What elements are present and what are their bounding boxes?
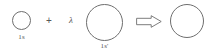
circle-outline-icon <box>170 4 204 38</box>
orbital-label-1s: 1s <box>2 34 42 41</box>
circle-outline-icon <box>86 4 123 41</box>
double-right-arrow-icon <box>136 15 162 28</box>
orbital-scaling-diagram: 1s + λ 1s' <box>0 0 209 50</box>
lambda-symbol-icon: λ <box>61 16 81 25</box>
orbital-label-1s-prime: 1s' <box>85 43 125 50</box>
plus-sign-icon: + <box>39 16 59 26</box>
circle-outline-icon <box>12 11 31 30</box>
